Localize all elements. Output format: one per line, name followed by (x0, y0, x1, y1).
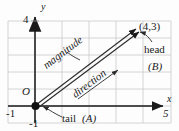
tail-label: tail (62, 113, 76, 124)
x-axis-max-tick-label: 5 (163, 108, 169, 119)
head-coordinate-label: (4,3) (139, 21, 160, 32)
tail-pointer-arrow (43, 107, 62, 118)
x-axis-min-tick-label: -1 (6, 108, 15, 119)
origin-label: O (22, 86, 30, 97)
y-axis-max-tick-label: 4 (23, 14, 29, 25)
y-axis-min-tick-label: -1 (29, 118, 38, 129)
head-label: head (144, 44, 165, 55)
y-axis-label: y (41, 2, 45, 12)
tail-point-dot (32, 102, 40, 110)
head-pointer-arrow (140, 32, 152, 42)
head-name-label: (B) (148, 61, 162, 72)
tail-name-label: (A) (82, 113, 96, 124)
vector-diagram-figure: 4 y x 5 -1 -1 O (4,3) head (B) tail (A) … (0, 0, 179, 131)
x-axis-label: x (167, 94, 171, 104)
